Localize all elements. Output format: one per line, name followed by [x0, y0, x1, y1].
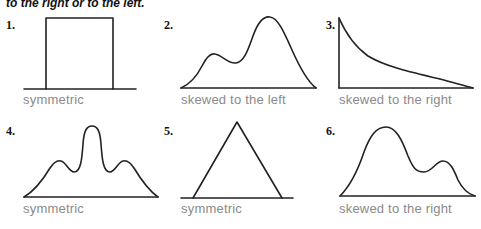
panel-3-caption: skewed to the right [339, 92, 452, 107]
panel-5-caption: symmetric [181, 201, 242, 216]
panel-5-triangle-shape [181, 122, 293, 198]
panel-6-right-skew-shape [340, 127, 475, 196]
panel-1-caption: symmetric [23, 92, 84, 107]
panel-2-left-skew-shape [181, 17, 316, 88]
panel-6-caption: skewed to the right [339, 201, 452, 216]
panel-3-right-skew-shape [339, 18, 473, 88]
panel-4-caption: symmetric [23, 201, 84, 216]
panel-2-caption: skewed to the left [181, 92, 286, 107]
panel-1-uniform-shape [24, 18, 136, 89]
panel-4-symmetric-shape [24, 126, 158, 197]
distribution-diagrams [0, 0, 481, 229]
